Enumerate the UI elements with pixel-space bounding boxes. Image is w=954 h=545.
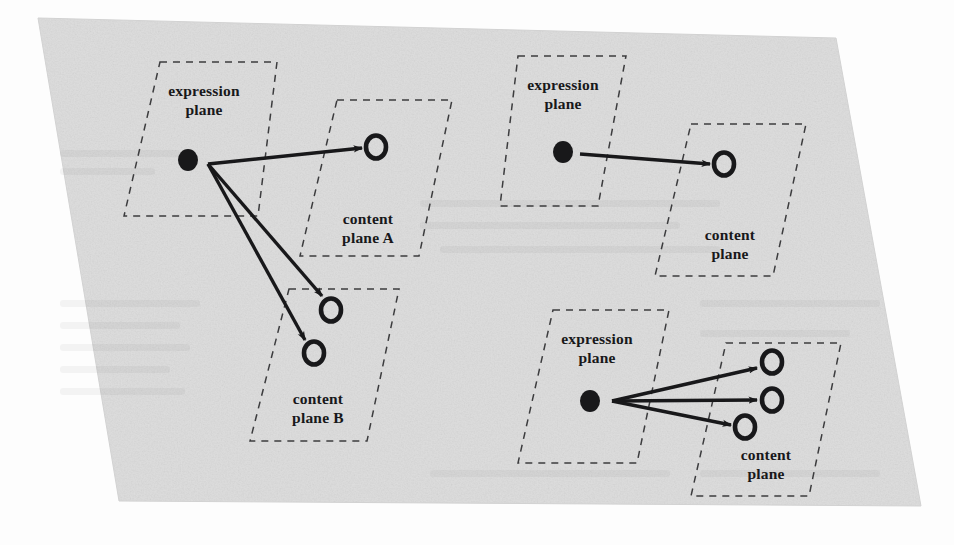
plane-label-line1: content [293,390,344,407]
expression-node-filled [178,149,198,171]
expression-node-filled [580,390,600,412]
plane-label-line2: plane [544,95,581,112]
plane-label-line1: content [705,226,756,243]
figure-canvas: expressionplanecontentplane Acontentplan… [0,0,954,545]
plane-label-line2: plane [747,465,784,482]
plane-label-line1: content [343,210,394,227]
plane-label-line1: expression [168,82,240,99]
diagram-svg: expressionplanecontentplane Acontentplan… [0,0,954,545]
relation-arrow [612,400,757,401]
plane-label-line1: expression [527,76,599,93]
plane-label-line2: plane [185,101,222,118]
plane-label-line2: plane [578,349,615,366]
plane-label-line1: expression [561,330,633,347]
plane-label-line2: plane B [292,409,344,426]
expression-node-filled [553,141,573,163]
plane-label-line1: content [741,446,792,463]
plane-label-line2: plane [711,245,748,262]
plane-label-line2: plane A [342,229,394,246]
